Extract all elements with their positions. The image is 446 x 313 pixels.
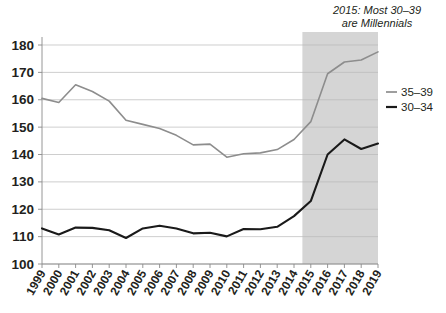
y-axis-tick-labels: 100110120130140150160170180	[11, 38, 34, 272]
line-chart: 100110120130140150160170180 199920002001…	[0, 0, 446, 313]
y-tick-label: 170	[11, 65, 34, 80]
y-tick-label: 140	[11, 147, 34, 162]
y-tick-label: 130	[11, 174, 34, 189]
y-tick-label: 150	[11, 120, 34, 135]
chart-background	[0, 0, 446, 313]
y-tick-label: 160	[11, 92, 34, 107]
annotation-line-1: 2015: Most 30–39	[332, 4, 421, 16]
annotation-millennials: 2015: Most 30–39 are Millennials	[332, 4, 421, 29]
legend-label-1: 35–39	[401, 86, 433, 98]
y-tick-label: 110	[12, 229, 34, 244]
y-tick-label: 180	[11, 38, 34, 53]
chart-canvas: 100110120130140150160170180 199920002001…	[0, 0, 446, 313]
y-tick-label: 120	[11, 202, 34, 217]
legend-label-2: 30–34	[401, 101, 434, 113]
annotation-line-2: are Millennials	[342, 17, 413, 29]
y-tick-label: 100	[11, 257, 34, 272]
